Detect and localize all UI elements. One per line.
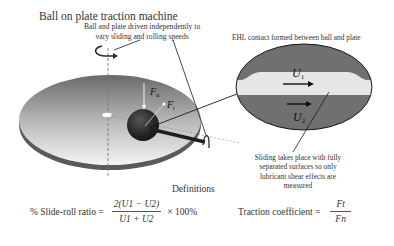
slide-roll-numerator: 2(U1 − U2) xyxy=(112,199,161,212)
definitions-heading: Definitions xyxy=(172,184,215,194)
slide-roll-suffix: × 100% xyxy=(167,207,197,217)
traction-fraction: Ft Fn xyxy=(330,199,350,224)
drive-note-leader-line-2 xyxy=(114,40,140,50)
slide-roll-label: % Slide-roll ratio = xyxy=(30,207,104,217)
tangential-force-tip xyxy=(163,103,166,106)
traction-coefficient-formula: Traction coefficient = Ft Fn xyxy=(238,199,351,224)
traction-label: Traction coefficient = xyxy=(238,207,320,217)
plate-center-hole xyxy=(102,113,112,118)
sliding-note: Sliding takes place with fully separated… xyxy=(250,153,346,190)
slide-roll-denominator: U1 + U2 xyxy=(117,212,155,224)
plate-top xyxy=(19,75,201,165)
slide-roll-fraction: 2(U1 − U2) U1 + U2 xyxy=(112,199,161,224)
traction-denominator: Fn xyxy=(333,212,348,224)
ball-rotation-arrow-icon xyxy=(203,136,209,148)
slide-roll-ratio-formula: % Slide-roll ratio = 2(U1 − U2) U1 + U2 … xyxy=(30,199,197,224)
plate xyxy=(19,75,201,170)
ehl-contact-ellipse: U1 U2 xyxy=(230,44,380,130)
plate-rotation-arrow-icon xyxy=(96,46,118,59)
traction-numerator: Ft xyxy=(330,199,350,212)
ball xyxy=(127,109,159,141)
